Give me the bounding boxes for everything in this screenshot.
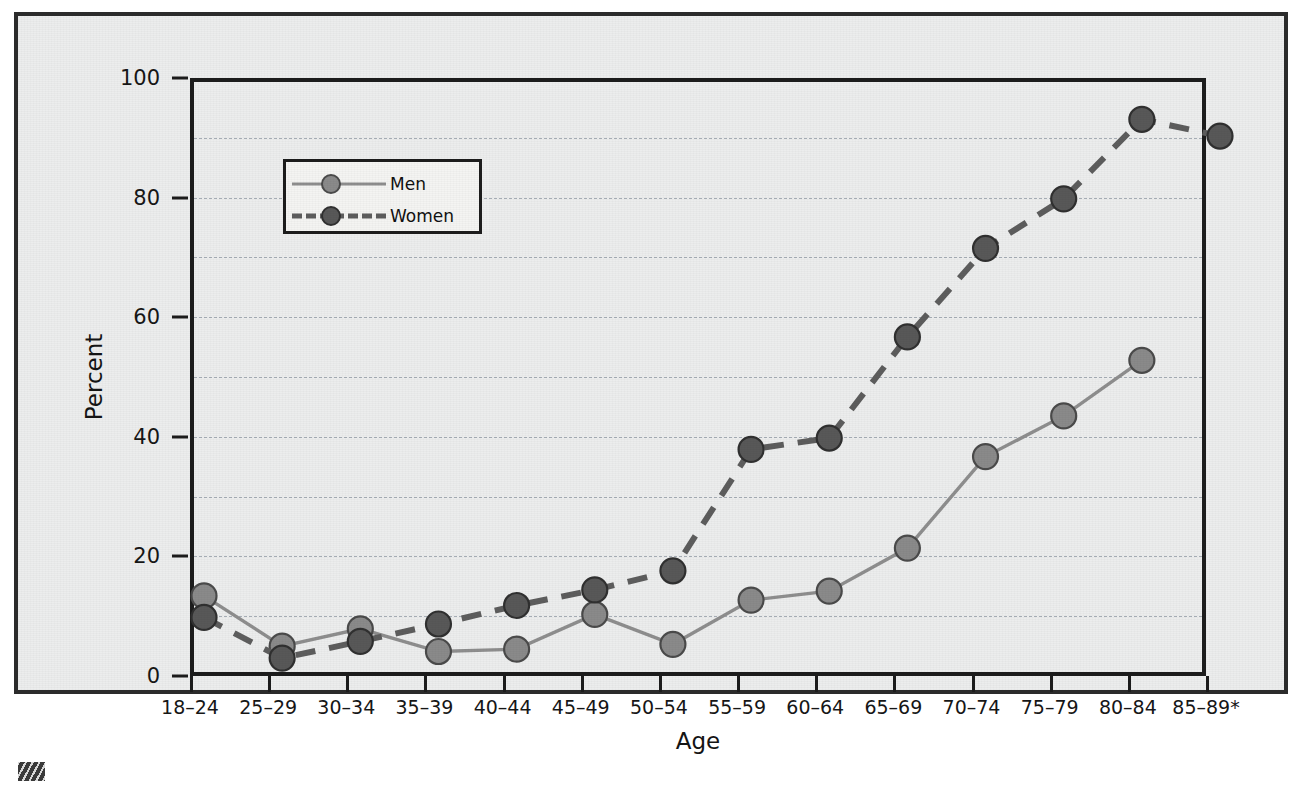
y-tick-mark <box>172 196 188 199</box>
x-tick-mark <box>346 676 349 692</box>
y-tick-label: 40 <box>90 425 160 449</box>
gridline <box>194 616 1202 617</box>
x-tick-label: 80–84 <box>1099 696 1157 718</box>
data-point-women <box>1208 124 1233 149</box>
page-artifact-fragment <box>18 762 45 781</box>
x-tick-label: 40–44 <box>474 696 532 718</box>
y-axis-title: Percent <box>81 334 107 421</box>
gridline <box>194 377 1202 378</box>
gridline <box>194 138 1202 139</box>
y-tick-label: 80 <box>90 186 160 210</box>
y-tick-mark <box>172 555 188 558</box>
x-axis-title: Age <box>676 728 720 754</box>
x-tick-label: 25–29 <box>239 696 297 718</box>
x-tick-mark <box>737 676 740 692</box>
x-tick-mark <box>1128 676 1131 692</box>
x-tick-label: 30–34 <box>317 696 375 718</box>
x-tick-mark <box>503 676 506 692</box>
y-tick-label: 20 <box>90 544 160 568</box>
legend-swatch-men <box>286 169 390 199</box>
legend-marker-men-icon <box>321 174 341 194</box>
legend-item-men: Men <box>286 167 479 201</box>
x-tick-mark <box>893 676 896 692</box>
y-tick-label: 100 <box>90 66 160 90</box>
y-tick-mark <box>172 675 188 678</box>
x-tick-mark <box>268 676 271 692</box>
legend-label-women: Women <box>390 206 454 226</box>
x-tick-label: 85–89* <box>1172 696 1239 718</box>
x-tick-mark <box>424 676 427 692</box>
x-tick-label: 35–39 <box>396 696 454 718</box>
legend-item-women: Women <box>286 199 479 233</box>
figure-frame: Percent Age 020406080100 18–2425–2930–34… <box>14 12 1288 694</box>
y-tick-mark <box>172 77 188 80</box>
x-tick-mark <box>1050 676 1053 692</box>
y-tick-label: 0 <box>90 664 160 688</box>
y-tick-mark <box>172 435 188 438</box>
x-tick-label: 18–24 <box>161 696 219 718</box>
gridline <box>194 497 1202 498</box>
x-tick-mark <box>972 676 975 692</box>
gridline <box>194 317 1202 318</box>
legend-swatch-women <box>286 201 390 231</box>
gridline <box>194 437 1202 438</box>
x-tick-label: 70–74 <box>943 696 1001 718</box>
x-tick-label: 60–64 <box>786 696 844 718</box>
gridline <box>194 556 1202 557</box>
x-tick-mark <box>815 676 818 692</box>
x-tick-label: 65–69 <box>864 696 922 718</box>
legend-marker-women-icon <box>321 206 341 226</box>
x-tick-label: 75–79 <box>1021 696 1079 718</box>
y-tick-mark <box>172 316 188 319</box>
legend-label-men: Men <box>390 174 426 194</box>
y-tick-label: 60 <box>90 305 160 329</box>
x-tick-label: 45–49 <box>552 696 610 718</box>
x-tick-mark <box>190 676 193 692</box>
x-tick-mark <box>1206 676 1209 692</box>
x-tick-label: 50–54 <box>630 696 688 718</box>
gridline <box>194 257 1202 258</box>
x-tick-mark <box>581 676 584 692</box>
x-tick-label: 55–59 <box>708 696 766 718</box>
chart-legend: Men Women <box>283 159 482 234</box>
x-tick-mark <box>659 676 662 692</box>
